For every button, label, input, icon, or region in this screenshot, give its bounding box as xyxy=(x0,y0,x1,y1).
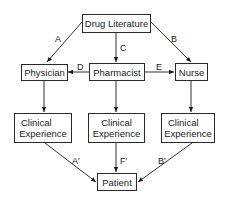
node-label: Physician xyxy=(24,67,65,78)
edge-label-a-prime: A′ xyxy=(72,156,80,166)
node-label-line1: Clinical xyxy=(15,117,52,129)
edge-a-prime xyxy=(45,143,96,182)
node-patient: Patient xyxy=(97,173,137,191)
edge-label-d: D xyxy=(77,62,84,72)
edge-label-f-prime: F′ xyxy=(120,156,127,166)
edge-label-b-prime: B′ xyxy=(158,156,166,166)
edge-label-c: C xyxy=(120,43,127,53)
node-label: Pharmacist xyxy=(93,67,141,78)
edge-label-e: E xyxy=(156,62,162,72)
node-drug-literature: Drug Literature xyxy=(82,14,151,33)
node-label-line2: Experience xyxy=(93,128,141,140)
node-label: Patient xyxy=(102,177,132,188)
node-nurse: Nurse xyxy=(175,63,208,81)
node-pharmacist: Pharmacist xyxy=(89,63,145,81)
node-label-line1: Clinical xyxy=(162,117,199,129)
node-label: Nurse xyxy=(179,67,204,78)
node-label-line1: Clinical xyxy=(101,117,132,129)
node-label: Drug Literature xyxy=(85,18,148,29)
node-clinical-experience-right: Clinical Experience xyxy=(161,113,215,143)
node-label-line2: Experience xyxy=(164,128,212,140)
node-clinical-experience-center: Clinical Experience xyxy=(88,113,145,143)
node-physician: Physician xyxy=(21,64,68,81)
edge-label-b: B xyxy=(171,34,177,44)
edge-label-a: A xyxy=(55,34,61,44)
node-clinical-experience-left: Clinical Experience xyxy=(14,113,72,143)
node-label-line2: Experience xyxy=(19,128,67,140)
edge-a xyxy=(47,22,82,62)
